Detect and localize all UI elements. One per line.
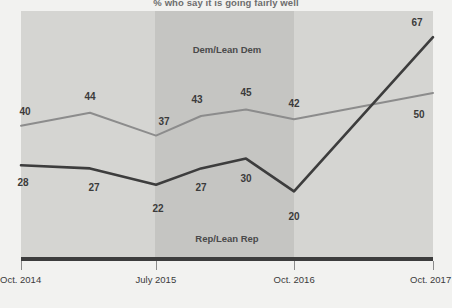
data-label-dem: 43	[191, 94, 202, 105]
x-axis-label: Oct. 2014	[0, 274, 41, 285]
x-axis-tick	[433, 261, 434, 270]
chart-subtitle: % who say it is going fairly well	[0, 0, 452, 8]
line-chart: % who say it is going fairly well Dem/Le…	[0, 0, 452, 308]
x-axis-tick	[156, 261, 157, 270]
x-axis-label: July 2015	[136, 274, 177, 285]
data-label-rep: 30	[240, 173, 251, 184]
data-label-rep: 27	[195, 182, 206, 193]
dem-lean-dem-line	[21, 93, 433, 136]
data-label-dem: 37	[158, 116, 169, 127]
data-label-rep: 67	[411, 17, 422, 28]
data-label-rep: 22	[152, 203, 163, 214]
x-axis-label: Oct. 2016	[274, 274, 315, 285]
data-label-dem: 42	[288, 98, 299, 109]
x-axis-tick	[294, 261, 295, 270]
data-label-dem: 50	[413, 109, 424, 120]
x-axis-label: Oct. 2017	[410, 274, 451, 285]
data-label-rep: 28	[17, 177, 28, 188]
x-axis-tick	[21, 261, 22, 270]
data-label-dem: 44	[84, 91, 95, 102]
x-axis-line	[21, 257, 433, 261]
data-label-rep: 27	[88, 182, 99, 193]
data-label-rep: 20	[288, 211, 299, 222]
data-label-dem: 45	[240, 87, 251, 98]
series-lines	[21, 11, 433, 257]
plot-area: Dem/Lean Dem Rep/Lean Rep 40443743454250…	[21, 11, 433, 257]
data-label-dem: 40	[19, 106, 30, 117]
